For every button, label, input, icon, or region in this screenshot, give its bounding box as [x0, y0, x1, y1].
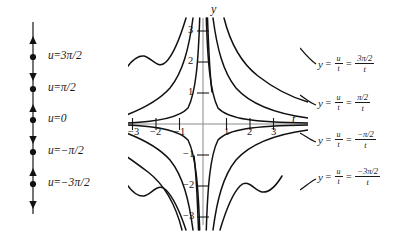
legend-fraction-value: −3π/2 t [355, 167, 380, 186]
legend-equals-1: = [325, 134, 331, 145]
phase-label-pi-over-2: u=π/2 [48, 81, 76, 93]
curve-minus-3pi-over-2-left [128, 18, 193, 116]
legend-lhs: y [318, 134, 323, 146]
legend-value-denominator: t [361, 103, 363, 112]
legend-fraction-numerator: u [335, 131, 343, 141]
legend-fraction-numerator: u [335, 55, 343, 65]
legend-equals-1: = [325, 97, 331, 108]
curve-bump-lower-left [128, 180, 186, 230]
flow-arrow-down [29, 73, 36, 81]
equilibrium-dot [30, 149, 36, 155]
curve-pi-over-2-right [206, 18, 308, 123]
legend-value-numerator: π/2 [355, 93, 370, 103]
legend-fraction-numerator: u [335, 94, 343, 104]
legend-fraction-u-over-t: u t [335, 94, 343, 112]
legend-fraction-denominator: t [337, 177, 339, 186]
phase-label-value: 0 [61, 112, 67, 124]
phase-label-equals: = [54, 112, 61, 124]
legend-value-numerator: −3π/2 [355, 167, 380, 177]
leader-lines [300, 0, 412, 233]
legend-fraction-denominator: t [337, 103, 339, 112]
solution-curves-graphic [128, 0, 308, 233]
legend-value-denominator: t [364, 64, 366, 73]
phase-label-minus-3pi-over-2: u=−3π/2 [48, 176, 90, 188]
legend-equals-2: = [346, 58, 352, 69]
leader-line-1 [300, 48, 316, 64]
phase-label-equals: = [54, 49, 61, 61]
legend-value-denominator: t [364, 140, 366, 149]
legend-fraction-value: 3π/2 t [355, 54, 374, 73]
legend-value-denominator: t [366, 177, 368, 186]
phase-label-value: −π/2 [61, 144, 84, 156]
phase-label-value: π/2 [61, 81, 76, 93]
legend-lhs: y [318, 97, 323, 109]
flow-arrow-down [29, 201, 36, 209]
y-axis-label: y [211, 2, 216, 17]
flow-arrow-up [29, 168, 36, 176]
y-tick-label-minus-3: −3 [183, 210, 194, 221]
legend-equals-1: = [325, 58, 331, 69]
curve-minus-pi-over-2-right [206, 125, 308, 230]
legend-fraction-numerator: u [335, 168, 343, 178]
y-tick-label-2: 2 [188, 55, 193, 66]
legend-fraction-value: −π/2 t [355, 130, 376, 149]
x-tick-label-minus-2: −2 [150, 126, 161, 137]
legend-fraction-denominator: t [337, 140, 339, 149]
equilibrium-dot [30, 86, 36, 92]
phase-label-value: 3π/2 [61, 49, 82, 61]
y-tick-label-1: 1 [188, 86, 193, 97]
phase-label-minus-pi-over-2: u=−π/2 [48, 144, 84, 156]
phase-line-panel: u=3π/2 u=π/2 u=0 u=−π/2 u=−3π/2 [0, 0, 140, 233]
curve-bump-lower-right-mirror [220, 176, 282, 230]
legend-fraction-u-over-t: u t [335, 131, 343, 149]
curve-label-minus-pi-over-2: y = u t = −π/2 t [318, 130, 377, 149]
curve-label-3pi-over-2: y = u t = 3π/2 t [318, 54, 375, 73]
y-tick-label-minus-1: −1 [183, 148, 194, 159]
equilibrium-dot [30, 117, 36, 123]
curve-minus-3pi-over-2-right [213, 130, 308, 230]
legend-value-numerator: 3π/2 [355, 54, 374, 64]
x-tick-label-minus-3: −3 [128, 126, 139, 137]
y-tick-label-3: 3 [188, 24, 193, 35]
legend-fraction-u-over-t: u t [335, 55, 343, 73]
x-tick-label-minus-1: −1 [174, 126, 185, 137]
legend-lhs: y [318, 58, 323, 70]
solution-curves-panel: y t −3 −2 −1 1 2 3 3 2 1 −1 −2 −3 [128, 0, 308, 233]
flow-arrow-down [29, 136, 36, 144]
phase-label-value: −3π/2 [61, 176, 90, 188]
legend-equals-2: = [346, 134, 352, 145]
y-tick-label-minus-2: −2 [183, 179, 194, 190]
phase-line-graphic [0, 0, 140, 233]
legend-lhs: y [318, 171, 323, 183]
legend-fraction-value: π/2 t [355, 93, 370, 112]
legend-equals-1: = [325, 171, 331, 182]
leader-line-3 [300, 133, 316, 142]
x-tick-label-3: 3 [271, 126, 276, 137]
phase-label-equals: = [54, 144, 61, 156]
curve-label-minus-3pi-over-2: y = u t = −3π/2 t [318, 167, 381, 186]
legend-value-numerator: −π/2 [355, 130, 376, 140]
phase-label-zero: u=0 [48, 112, 67, 124]
legend-fraction-u-over-t: u t [335, 168, 343, 186]
equilibrium-dot [30, 181, 36, 187]
phase-label-equals: = [54, 81, 61, 93]
legend-equals-2: = [346, 97, 352, 108]
leader-line-4 [300, 179, 316, 190]
x-tick-label-2: 2 [247, 126, 252, 137]
leader-line-2 [300, 95, 316, 105]
curve-3pi-over-2-right [213, 18, 308, 118]
flow-arrow-up [29, 36, 36, 44]
legend-fraction-denominator: t [337, 64, 339, 73]
flow-arrow-up [29, 104, 36, 112]
t-axis-label: t [292, 112, 295, 127]
curve-bump-upper-left [128, 18, 186, 72]
equilibrium-dot [30, 54, 36, 60]
x-tick-label-1: 1 [224, 126, 229, 137]
figure-phase-line-and-solution-curves: u=3π/2 u=π/2 u=0 u=−π/2 u=−3π/2 [0, 0, 412, 233]
curve-labels-panel: y = u t = 3π/2 t y = u t = π/2 t [300, 0, 412, 233]
legend-equals-2: = [346, 171, 352, 182]
phase-label-equals: = [54, 176, 61, 188]
phase-label-3pi-over-2: u=3π/2 [48, 49, 82, 61]
curve-label-pi-over-2: y = u t = π/2 t [318, 93, 371, 112]
